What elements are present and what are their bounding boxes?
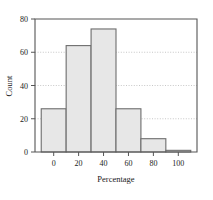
y-ticklabel-20: 20: [20, 115, 28, 124]
x-axis-label: Percentage: [97, 174, 135, 184]
x-ticklabel-60: 60: [124, 159, 132, 168]
y-axis-ticks: [31, 19, 35, 152]
bar-bin-4: [116, 109, 141, 152]
y-ticklabel-80: 80: [20, 15, 28, 24]
x-axis-ticks: [54, 152, 179, 156]
x-ticklabel-80: 80: [149, 159, 157, 168]
bar-bin-3: [91, 29, 116, 152]
y-ticklabel-0: 0: [24, 148, 28, 157]
bar-bin-2: [66, 46, 91, 152]
y-axis-tick-labels: 80 60 40 20 0: [20, 15, 28, 157]
chart-canvas: 80 60 40 20 0 0 20 40 60 80 100 Percenta…: [0, 0, 213, 200]
x-ticklabel-20: 20: [75, 159, 83, 168]
y-ticklabel-60: 60: [20, 48, 28, 57]
x-ticklabel-100: 100: [172, 159, 184, 168]
bars-group: [41, 29, 191, 152]
y-ticklabel-40: 40: [20, 82, 28, 91]
x-axis-tick-labels: 0 20 40 60 80 100: [52, 159, 185, 168]
x-ticklabel-40: 40: [100, 159, 108, 168]
bar-bin-1: [41, 109, 66, 152]
x-ticklabel-0: 0: [52, 159, 56, 168]
bar-bin-5: [141, 139, 166, 152]
histogram-chart: 80 60 40 20 0 0 20 40 60 80 100 Percenta…: [0, 0, 213, 200]
y-axis-label: Count: [4, 75, 14, 96]
